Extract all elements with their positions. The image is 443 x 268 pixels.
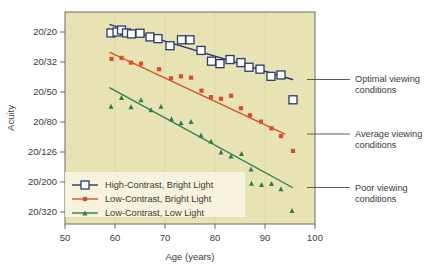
y-tick-label: 20/80 (33, 116, 57, 127)
marker-square-open (146, 33, 154, 41)
marker-square-open (216, 60, 224, 68)
y-axis-title: Acuity (5, 105, 16, 131)
y-tick-label: 20/320 (28, 206, 57, 217)
marker-square-filled (248, 113, 252, 117)
marker-square-filled (109, 57, 113, 61)
legend-item-label: High-Contrast, Bright Light (105, 180, 214, 190)
marker-square-open (128, 30, 136, 38)
chart-svg: 20/2020/3220/5020/8020/12620/20020/320 5… (0, 0, 443, 268)
marker-square-filled (239, 106, 243, 110)
marker-square-open (208, 57, 216, 65)
marker-square-filled (269, 126, 273, 130)
annotation-line-2: conditions (355, 85, 397, 95)
marker-square-filled (209, 95, 213, 99)
marker-square-filled (189, 76, 193, 80)
x-axis-title: Age (years) (165, 251, 214, 262)
x-tick-label: 100 (307, 232, 323, 243)
marker-square-filled (291, 149, 295, 153)
marker-square-open (166, 42, 174, 50)
marker-square-filled (119, 56, 123, 60)
marker-square-open (197, 46, 205, 54)
x-tick-label: 90 (260, 232, 271, 243)
marker-square-open (289, 96, 297, 104)
marker-square-open (154, 35, 162, 43)
marker-square-filled (83, 197, 87, 201)
annotation-line-2: conditions (355, 140, 397, 150)
marker-square-filled (139, 62, 143, 66)
acuity-vs-age-figure: 20/2020/3220/5020/8020/12620/20020/320 5… (0, 0, 443, 268)
x-tick-label: 50 (60, 232, 71, 243)
y-tick-label: 20/50 (33, 86, 57, 97)
marker-square-open (81, 181, 89, 189)
x-tick-label: 60 (110, 232, 121, 243)
marker-square-filled (259, 119, 263, 123)
annotation-line-1: Average viewing (355, 129, 422, 139)
annotation-line-1: Poor viewing (355, 183, 408, 193)
marker-square-filled (179, 74, 183, 78)
legend-item-label: Low-Contrast, Low Light (105, 208, 205, 218)
marker-square-filled (157, 67, 161, 71)
marker-square-filled (129, 61, 133, 65)
annotation-line-1: Optimal viewing (355, 74, 420, 84)
marker-square-filled (229, 94, 233, 98)
legend: High-Contrast, Bright LightLow-Contrast,… (65, 172, 245, 218)
marker-square-open (226, 56, 234, 64)
y-tick-label: 20/32 (33, 56, 57, 67)
legend-item-label: Low-Contrast, Bright Light (105, 194, 212, 204)
x-tick-label: 70 (160, 232, 171, 243)
marker-square-open (256, 65, 264, 73)
marker-square-filled (279, 134, 283, 138)
marker-square-open (267, 72, 275, 80)
marker-square-filled (169, 76, 173, 80)
x-tick-label: 80 (210, 232, 221, 243)
annotation-line-2: conditions (355, 194, 397, 204)
y-tick-label: 20/126 (28, 146, 57, 157)
marker-square-open (277, 71, 285, 79)
marker-square-open (178, 36, 186, 44)
y-tick-label: 20/200 (28, 176, 57, 187)
y-tick-label: 20/20 (33, 26, 57, 37)
marker-square-open (245, 63, 253, 71)
marker-square-filled (199, 89, 203, 93)
marker-square-filled (219, 97, 223, 101)
marker-square-open (237, 59, 245, 67)
marker-square-open (136, 29, 144, 37)
marker-square-open (186, 36, 194, 44)
